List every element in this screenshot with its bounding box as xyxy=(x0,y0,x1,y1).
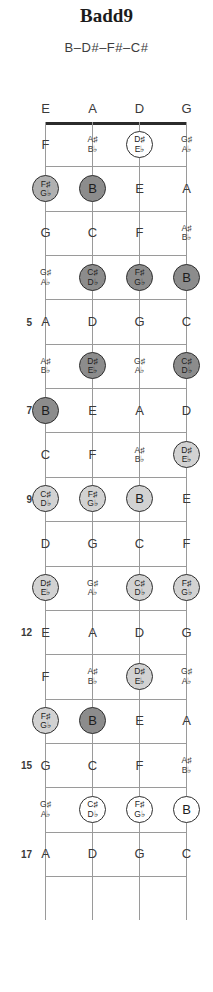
note-label-a-fret16: C♯D♭ xyxy=(76,800,110,819)
note-label-g-fret14: A xyxy=(170,714,204,727)
note-label-g-fret3: A♯B♭ xyxy=(170,224,204,243)
note-label-d-fret1: D♯E♭ xyxy=(123,135,157,154)
note-label-e-fret6: A♯B♭ xyxy=(29,357,63,376)
note-label-e-fret9: C♯D♭ xyxy=(29,490,63,509)
note-label-e-fret4: G♯A♭ xyxy=(29,268,63,287)
open-string-label-e: E xyxy=(29,102,63,115)
note-label-a-fret3: C xyxy=(76,226,110,239)
note-label-a-fret10: G xyxy=(76,537,110,550)
note-label-e-fret11: D♯E♭ xyxy=(29,579,63,598)
note-label-e-fret14: F♯G♭ xyxy=(29,712,63,731)
note-label-d-fret11: C♯D♭ xyxy=(123,579,157,598)
note-label-e-fret7: B xyxy=(29,404,63,417)
fret-line xyxy=(45,255,187,256)
note-label-d-fret14: E xyxy=(123,714,157,727)
fret-line xyxy=(45,521,187,522)
fret-line xyxy=(45,344,187,345)
fret-line xyxy=(45,477,187,478)
fret-line xyxy=(45,699,187,700)
open-string-label-d: D xyxy=(123,102,157,115)
note-label-e-fret16: G♯A♭ xyxy=(29,800,63,819)
note-label-g-fret9: E xyxy=(170,492,204,505)
note-label-d-fret5: G xyxy=(123,315,157,328)
fretboard-diagram: EADGFA♯B♭D♯E♭G♯A♭F♯G♭BEAGCFA♯B♭G♯A♭C♯D♭F… xyxy=(0,0,213,992)
note-label-g-fret2: A xyxy=(170,182,204,195)
note-label-a-fret6: D♯E♭ xyxy=(76,357,110,376)
note-label-g-fret12: G xyxy=(170,626,204,639)
note-label-d-fret7: A xyxy=(123,404,157,417)
note-label-g-fret6: C♯D♭ xyxy=(170,357,204,376)
open-string-label-g: G xyxy=(170,102,204,115)
fret-line xyxy=(45,211,187,212)
note-label-g-fret13: G♯A♭ xyxy=(170,667,204,686)
note-label-e-fret12: E xyxy=(29,626,63,639)
note-label-d-fret10: C xyxy=(123,537,157,550)
note-label-a-fret1: A♯B♭ xyxy=(76,135,110,154)
note-label-e-fret3: G xyxy=(29,226,63,239)
note-label-g-fret4: B xyxy=(170,271,204,284)
fret-line xyxy=(45,654,187,655)
note-label-a-fret9: F♯G♭ xyxy=(76,490,110,509)
note-label-d-fret16: F♯G♭ xyxy=(123,800,157,819)
note-label-g-fret15: A♯B♭ xyxy=(170,756,204,775)
note-label-g-fret5: C xyxy=(170,315,204,328)
note-label-g-fret7: D xyxy=(170,404,204,417)
note-label-g-fret10: F xyxy=(170,537,204,550)
note-label-d-fret6: G♯A♭ xyxy=(123,357,157,376)
fret-line xyxy=(45,566,187,567)
note-label-d-fret9: B xyxy=(123,492,157,505)
note-label-g-fret8: D♯E♭ xyxy=(170,446,204,465)
note-label-e-fret13: F xyxy=(29,670,63,683)
note-label-a-fret5: D xyxy=(76,315,110,328)
fret-line xyxy=(45,743,187,744)
fret-line xyxy=(45,832,187,833)
fret-line xyxy=(45,299,187,300)
fret-line xyxy=(45,876,187,877)
note-label-a-fret8: F xyxy=(76,448,110,461)
note-label-e-fret10: D xyxy=(29,537,63,550)
note-label-e-fret5: A xyxy=(29,315,63,328)
note-label-d-fret3: F xyxy=(123,226,157,239)
open-string-label-a: A xyxy=(76,102,110,115)
note-label-g-fret11: F♯G♭ xyxy=(170,579,204,598)
fret-line xyxy=(45,166,187,167)
note-label-d-fret17: G xyxy=(123,847,157,860)
nut xyxy=(45,122,187,125)
note-label-g-fret16: B xyxy=(170,803,204,816)
note-label-g-fret1: G♯A♭ xyxy=(170,135,204,154)
note-label-a-fret11: G♯A♭ xyxy=(76,579,110,598)
note-label-e-fret17: A xyxy=(29,847,63,860)
fret-line xyxy=(45,787,187,788)
note-label-d-fret4: F♯G♭ xyxy=(123,268,157,287)
note-label-d-fret12: D xyxy=(123,626,157,639)
note-label-a-fret13: A♯B♭ xyxy=(76,667,110,686)
fret-line xyxy=(45,432,187,433)
note-label-g-fret17: C xyxy=(170,847,204,860)
note-label-e-fret8: C xyxy=(29,448,63,461)
note-label-e-fret15: G xyxy=(29,759,63,772)
fret-line xyxy=(45,610,187,611)
note-label-a-fret7: E xyxy=(76,404,110,417)
note-label-a-fret17: D xyxy=(76,847,110,860)
note-label-e-fret1: F xyxy=(29,138,63,151)
note-label-a-fret12: A xyxy=(76,626,110,639)
note-label-d-fret15: F xyxy=(123,759,157,772)
note-label-e-fret2: F♯G♭ xyxy=(29,180,63,199)
note-label-a-fret15: C xyxy=(76,759,110,772)
fret-line xyxy=(45,388,187,389)
note-label-d-fret2: E xyxy=(123,182,157,195)
note-label-a-fret2: B xyxy=(76,182,110,195)
note-label-a-fret14: B xyxy=(76,714,110,727)
note-label-a-fret4: C♯D♭ xyxy=(76,268,110,287)
note-label-d-fret8: A♯B♭ xyxy=(123,446,157,465)
note-label-d-fret13: D♯E♭ xyxy=(123,667,157,686)
